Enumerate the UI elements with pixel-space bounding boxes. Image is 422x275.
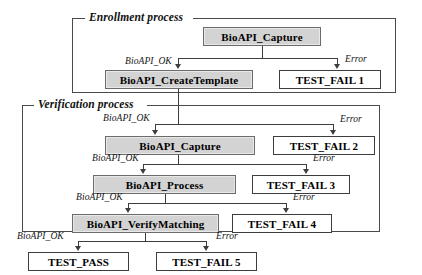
group-verification-rule-right	[147, 105, 380, 106]
edge-label-enroll-error: Error	[345, 54, 367, 64]
node-test-pass[interactable]: TEST_PASS	[28, 252, 129, 271]
edge-enroll-error-arrowhead	[334, 64, 340, 69]
group-enrollment-rule-left	[72, 18, 85, 19]
edge-label-enroll-ok: BioAPI_OK	[125, 56, 172, 66]
edge-label-final-ok: BioAPI_OK	[17, 231, 64, 241]
edge-label-verify-ok-3: BioAPI_OK	[76, 192, 123, 202]
edge-label-verify-ok-1: BioAPI_OK	[103, 113, 150, 123]
edge-label-verify-error-2: Error	[313, 153, 335, 163]
group-enrollment-rule-right	[193, 18, 396, 19]
edge-verify-error1-arrowhead	[330, 130, 336, 135]
edge-enroll-capture-stem	[262, 46, 263, 58]
edge-verify-matching-bar	[128, 203, 286, 204]
node-test-fail-1[interactable]: TEST_FAIL 1	[279, 70, 381, 89]
group-verification-label: Verification process	[35, 98, 137, 110]
edge-enroll-ok-arrowhead	[175, 64, 181, 69]
edge-final-bar	[78, 241, 206, 242]
group-enrollment-label: Enrollment process	[86, 11, 186, 23]
edge-label-verify-error-1: Error	[340, 114, 362, 124]
group-verification-rule-left	[22, 105, 34, 106]
edge-verify-capture-bar	[155, 124, 333, 125]
edge-final-ok-arrowhead	[75, 246, 81, 251]
node-test-fail-5[interactable]: TEST_FAIL 5	[156, 252, 257, 271]
node-bioapi-verifymatching[interactable]: BioAPI_VerifyMatching	[72, 214, 219, 233]
edge-verify-process-bar	[143, 164, 306, 165]
edge-verify-process-stem	[165, 194, 166, 203]
node-test-fail-4[interactable]: TEST_FAIL 4	[232, 214, 332, 233]
edge-verify-ok3-arrowhead	[125, 208, 131, 213]
diagram-canvas: Enrollment process BioAPI_Capture BioAPI…	[0, 0, 422, 275]
node-bioapi-createtemplate[interactable]: BioAPI_CreateTemplate	[105, 70, 253, 89]
edge-label-verify-ok-2: BioAPI_OK	[92, 153, 139, 163]
node-enrollment-bioapi-capture[interactable]: BioAPI_Capture	[203, 27, 321, 46]
edge-verify-error3-arrowhead	[283, 208, 289, 213]
edge-verify-ok2-arrowhead	[140, 169, 146, 174]
edge-enroll-capture-bar	[178, 58, 337, 59]
edge-label-verify-error-3: Error	[293, 192, 315, 202]
edge-verify-capture-stem	[178, 155, 179, 164]
edge-verifymatching-stem	[145, 233, 146, 241]
edge-final-error-arrowhead	[203, 246, 209, 251]
edge-label-final-error: Error	[216, 231, 238, 241]
edge-verify-error2-arrowhead	[303, 169, 309, 174]
edge-verify-ok1-arrowhead	[152, 130, 158, 135]
